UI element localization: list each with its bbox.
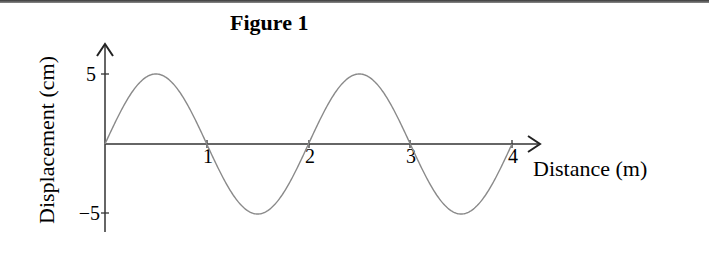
chart-title: Figure 1 [230, 10, 308, 35]
y-tick-5: 5 [86, 63, 96, 85]
x-axis-label: Distance (m) [533, 156, 647, 181]
wave-chart: Figure 1 Displacement (cm) 5 −5 1 2 3 4 … [0, 0, 709, 254]
x-tick-3: 3 [406, 145, 416, 167]
y-tick-neg5: −5 [79, 202, 100, 224]
x-axis [105, 136, 540, 152]
y-axis-label: Displacement (cm) [34, 56, 59, 224]
